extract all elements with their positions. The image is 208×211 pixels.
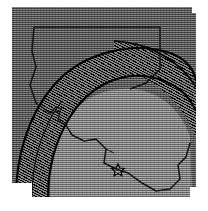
printed-plate (10, 7, 196, 197)
state-boundary-south (72, 135, 190, 191)
interior-boundary-spur (106, 149, 114, 153)
coastline-north (30, 27, 72, 135)
figure-container (0, 0, 208, 211)
paper-bite-left (10, 7, 12, 197)
paper-bite-bottom-right (190, 187, 196, 197)
state-boundary-north-east (34, 27, 160, 89)
state-outline-layer (10, 7, 196, 197)
paper-bite-top-right (192, 7, 196, 13)
paper-bite-bottom-left (10, 183, 32, 197)
